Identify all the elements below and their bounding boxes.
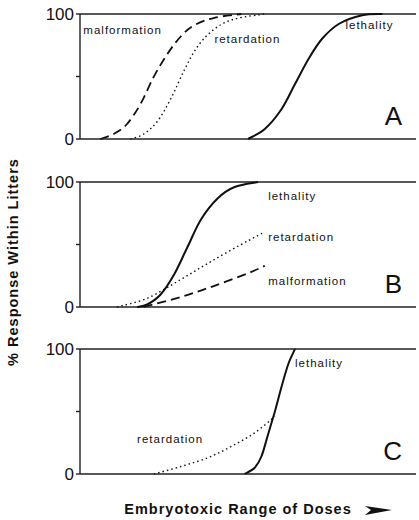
embryotoxicity-chart: 1000malformationretardationlethalityA100… — [0, 0, 419, 520]
panel-a: 1000malformationretardationlethalityA — [46, 5, 416, 149]
y-tick-label-0: 0 — [65, 298, 74, 317]
curve-lethality — [137, 182, 258, 307]
panel-b: 1000lethalityretardationmalformationB — [46, 173, 416, 317]
panel-letter-b: B — [385, 269, 402, 299]
x-axis-arrow-icon — [365, 506, 392, 515]
panel-letter-a: A — [385, 101, 403, 131]
series-label-retardation: retardation — [137, 433, 203, 445]
y-tick-label-0: 0 — [65, 465, 74, 484]
series-label-lethality: lethality — [295, 357, 343, 369]
curve-retardation — [117, 232, 265, 307]
y-tick-label-100: 100 — [46, 5, 74, 24]
curve-lethality — [245, 349, 295, 474]
series-label-retardation: retardation — [214, 33, 280, 45]
series-label-malformation: malformation — [83, 24, 161, 36]
y-tick-label-100: 100 — [46, 340, 74, 359]
panel-letter-c: C — [383, 436, 402, 466]
series-label-retardation: retardation — [268, 231, 334, 243]
series-label-malformation: malformation — [268, 275, 346, 287]
x-axis-label-text: Embryotoxic Range of Doses — [124, 501, 351, 517]
series-label-lethality: lethality — [345, 19, 393, 31]
x-axis-label: Embryotoxic Range of Doses — [124, 501, 351, 517]
y-tick-label-100: 100 — [46, 173, 74, 192]
panel-c: 1000retardationlethalityC — [46, 340, 416, 484]
series-label-lethality: lethality — [268, 190, 316, 202]
curve-malformation — [144, 266, 265, 307]
y-tick-label-0: 0 — [65, 130, 74, 149]
y-axis-label: % Response Within Litters — [5, 158, 21, 366]
